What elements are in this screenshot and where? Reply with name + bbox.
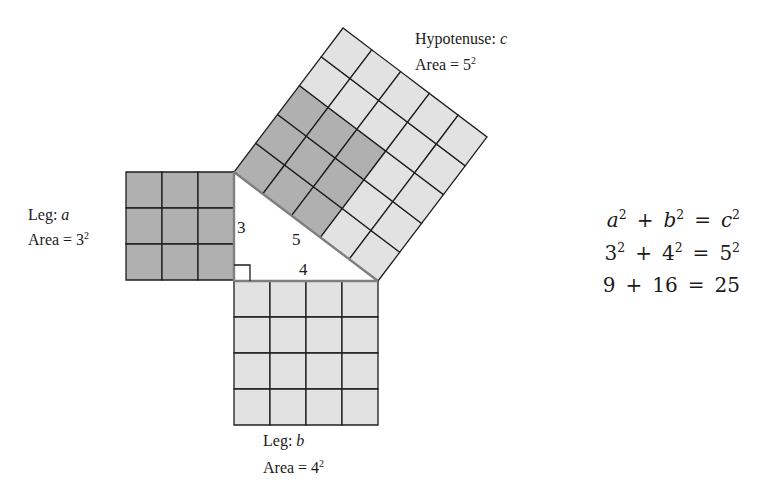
hypotenuse-area-exp: 2 (471, 55, 476, 66)
leg-a-area-exp: 2 (84, 230, 89, 241)
grid-cell (198, 172, 234, 208)
equation-1: a2 + b2 = c2 (607, 210, 740, 230)
term: c (721, 208, 732, 232)
hypotenuse-area-text: Area = 5 (415, 56, 471, 73)
grid-cell (162, 172, 198, 208)
leg-a-label-text: Leg: (28, 206, 57, 223)
operator: = (688, 273, 705, 297)
leg-b-area: Area = 42 (263, 460, 324, 476)
grid-cell (342, 281, 378, 317)
term: 5 (719, 241, 732, 265)
grid-cell (198, 244, 234, 280)
term: 3 (605, 241, 618, 265)
right-angle-marker (234, 265, 250, 281)
side-label-b: 4 (299, 261, 308, 278)
leg-a-var: a (61, 206, 69, 223)
grid-cell (306, 353, 342, 389)
leg-b-var: b (296, 432, 304, 449)
operator: + (635, 241, 652, 265)
grid-cell (234, 353, 270, 389)
grid-cell (270, 389, 306, 425)
hypotenuse-var: c (500, 30, 507, 47)
operator: = (694, 208, 711, 232)
operator: = (693, 241, 710, 265)
operator: + (637, 208, 654, 232)
grid-cell (270, 317, 306, 353)
leg-a-area-text: Area = 3 (28, 231, 84, 248)
grid-cell (306, 317, 342, 353)
hypotenuse-label-text: Hypotenuse: (415, 30, 496, 47)
exponent: 2 (732, 240, 740, 255)
operator: + (626, 273, 643, 297)
square-leg-b (234, 281, 378, 425)
square-leg-a (126, 172, 234, 280)
term: a (607, 208, 619, 232)
leg-b-area-exp: 2 (319, 458, 324, 469)
grid-cell (306, 281, 342, 317)
exponent: 2 (617, 240, 625, 255)
grid-cell (162, 208, 198, 244)
grid-cell (162, 244, 198, 280)
side-label-a: 3 (237, 219, 246, 236)
grid-cell (126, 172, 162, 208)
leg-b-label-text: Leg: (263, 432, 292, 449)
term: b (663, 208, 676, 232)
grid-cell (306, 389, 342, 425)
equation-3: 9 + 16 = 25 (603, 275, 740, 295)
grid-cell (198, 208, 234, 244)
leg-a-label: Leg: a (28, 207, 69, 223)
exponent: 2 (619, 207, 627, 222)
grid-cell (234, 389, 270, 425)
grid-cell (270, 353, 306, 389)
exponent: 2 (676, 207, 684, 222)
leg-b-label: Leg: b (263, 433, 304, 449)
term: 16 (652, 273, 677, 297)
term: 4 (662, 241, 675, 265)
exponent: 2 (675, 240, 683, 255)
hypotenuse-area: Area = 52 (415, 57, 476, 73)
side-label-c: 5 (292, 231, 301, 248)
grid-cell (342, 389, 378, 425)
leg-b-area-text: Area = 4 (263, 459, 319, 476)
grid-cell (126, 244, 162, 280)
grid-cell (270, 281, 306, 317)
term: 25 (715, 273, 740, 297)
exponent: 2 (732, 207, 740, 222)
hypotenuse-label: Hypotenuse: c (415, 31, 507, 47)
term: 9 (603, 273, 616, 297)
equation-2: 32 + 42 = 52 (605, 243, 740, 263)
grid-cell (342, 317, 378, 353)
grid-cell (234, 317, 270, 353)
grid-cell (126, 208, 162, 244)
grid-cell (234, 281, 270, 317)
grid-cell (342, 353, 378, 389)
leg-a-area: Area = 32 (28, 232, 89, 248)
